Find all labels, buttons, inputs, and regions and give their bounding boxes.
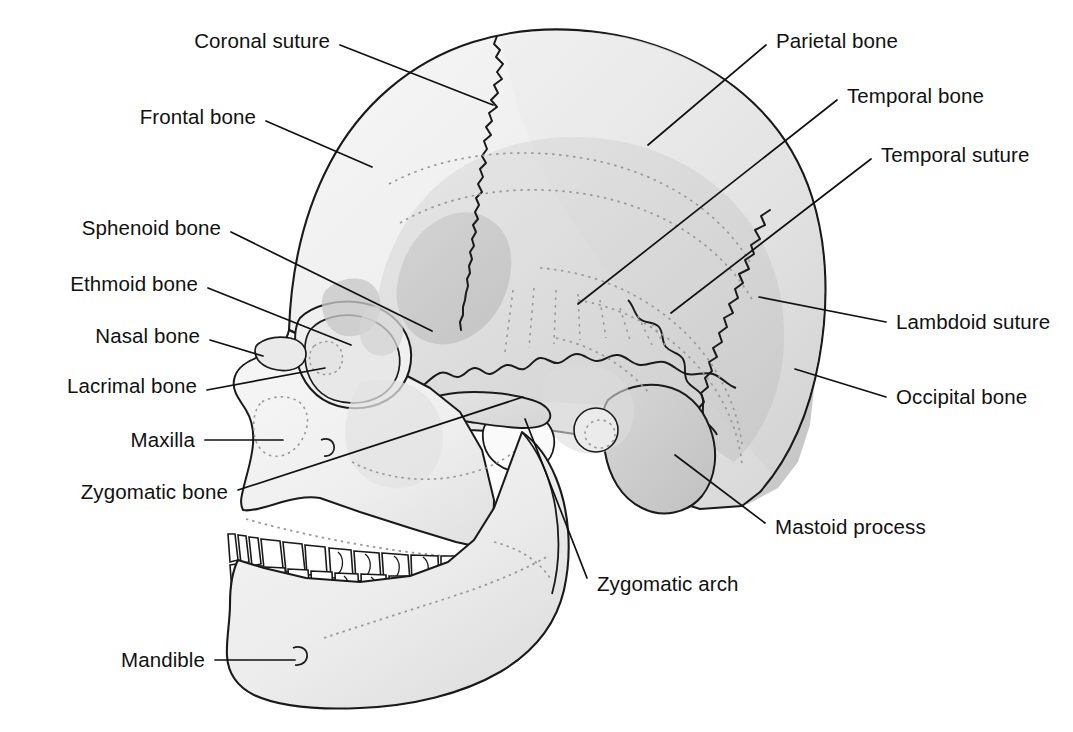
- label-sphenoid-bone: Sphenoid bone: [82, 218, 221, 239]
- label-maxilla: Maxilla: [131, 430, 196, 451]
- label-occipital-bone: Occipital bone: [896, 387, 1027, 408]
- label-mandible: Mandible: [121, 650, 205, 671]
- label-temporal-bone: Temporal bone: [847, 86, 984, 107]
- skull-diagram-figure: Coronal suture Frontal bone Sphenoid bon…: [0, 0, 1073, 732]
- label-lacrimal-bone: Lacrimal bone: [67, 376, 197, 397]
- label-mastoid-process: Mastoid process: [775, 517, 926, 538]
- label-lambdoid-suture: Lambdoid suture: [896, 312, 1050, 333]
- label-zygomatic-bone: Zygomatic bone: [81, 482, 228, 503]
- external-auditory-meatus: [574, 408, 618, 452]
- label-ethmoid-bone: Ethmoid bone: [70, 274, 198, 295]
- label-coronal-suture: Coronal suture: [194, 31, 330, 52]
- label-temporal-suture: Temporal suture: [881, 145, 1029, 166]
- label-parietal-bone: Parietal bone: [776, 31, 898, 52]
- label-frontal-bone: Frontal bone: [140, 107, 256, 128]
- cranium-group: [205, 29, 886, 708]
- label-nasal-bone: Nasal bone: [95, 326, 200, 347]
- label-zygomatic-arch: Zygomatic arch: [597, 574, 739, 595]
